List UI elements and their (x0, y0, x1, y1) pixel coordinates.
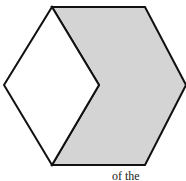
hexagon-diagram (0, 0, 186, 181)
caption-fragment: of the (112, 170, 140, 181)
